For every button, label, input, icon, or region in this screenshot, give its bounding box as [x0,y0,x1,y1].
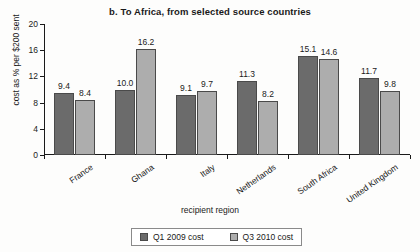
bar-group: 9.19.7 [176,24,217,155]
y-tick-mark [40,103,44,104]
chart-title: b. To Africa, from selected source count… [0,6,420,17]
bar-value-label: 10.0 [117,78,134,88]
bar-group: 11.38.2 [237,24,278,155]
bar-value-label: 16.2 [138,37,155,47]
bar-netherlands-series-1 [237,81,257,155]
bar-value-label: 9.7 [201,79,213,89]
bar-group: 9.48.4 [54,24,95,155]
bar-value-label: 14.6 [321,47,338,57]
bar-italy-series-2 [197,91,217,155]
y-tick-label: 16 [14,45,38,55]
x-category-label-france: France [67,162,94,185]
x-category-label-united-kingdom: United Kingdom [344,162,399,205]
x-category-label-italy: Italy [198,162,217,179]
bar-group: 11.79.8 [359,24,400,155]
legend-item-series-1: Q1 2009 cost [140,232,204,242]
y-tick-label: 20 [14,19,38,29]
bar-value-label: 11.7 [361,66,377,76]
x-axis-title: recipient region [0,205,420,215]
bar-netherlands-series-2 [258,101,278,155]
bar-france-series-2 [75,100,95,155]
x-tick-mark [288,155,289,159]
y-tick-label: 8 [14,98,38,108]
legend-label: Q1 2009 cost [153,232,204,242]
bar-italy-series-1 [176,95,196,155]
y-tick-mark [40,129,44,130]
bar-value-label: 9.8 [384,79,396,89]
y-tick-label: 12 [14,71,38,81]
y-tick-mark [40,76,44,77]
y-tick-label: 0 [14,150,38,160]
legend-label: Q3 2010 cost [243,232,294,242]
bar-value-label: 9.1 [180,83,192,93]
bar-group: 15.114.6 [298,24,339,155]
x-tick-mark [410,155,411,159]
legend-item-series-2: Q3 2010 cost [230,232,294,242]
bar-group: 10.016.2 [115,24,156,155]
bar-south-africa-series-2 [319,59,339,155]
bar-value-label: 11.3 [239,69,255,79]
chart-legend: Q1 2009 costQ3 2010 cost [131,228,302,246]
bar-united-kingdom-series-1 [359,78,379,155]
bar-ghana-series-2 [136,49,156,155]
bar-united-kingdom-series-2 [380,91,400,155]
bar-ghana-series-1 [115,90,135,156]
legend-swatch-icon [140,233,148,241]
y-axis-line [44,24,45,155]
bar-value-label: 8.2 [262,89,274,99]
bar-value-label: 8.4 [79,88,91,98]
bar-france-series-1 [54,93,74,155]
x-tick-mark [349,155,350,159]
bar-value-label: 9.4 [58,81,70,91]
x-category-label-netherlands: Netherlands [234,162,277,196]
x-tick-mark [44,155,45,159]
x-tick-mark [227,155,228,159]
legend-swatch-icon [230,233,238,241]
bar-value-label: 15.1 [300,44,317,54]
plot-area: 048121620 9.48.410.016.29.19.711.38.215.… [44,24,410,155]
y-tick-label: 4 [14,124,38,134]
x-tick-mark [166,155,167,159]
bar-south-africa-series-1 [298,56,318,155]
x-category-label-south-africa: South Africa [295,162,338,196]
y-tick-mark [40,24,44,25]
bar-chart: b. To Africa, from selected source count… [0,0,420,252]
x-category-label-ghana: Ghana [129,162,156,185]
y-tick-mark [40,50,44,51]
x-tick-mark [105,155,106,159]
